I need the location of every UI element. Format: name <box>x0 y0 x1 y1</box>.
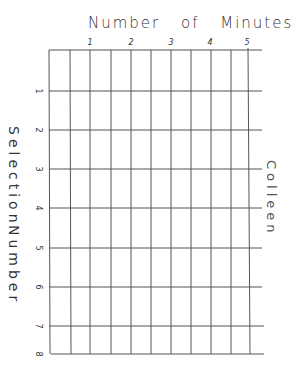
grid <box>0 0 302 374</box>
